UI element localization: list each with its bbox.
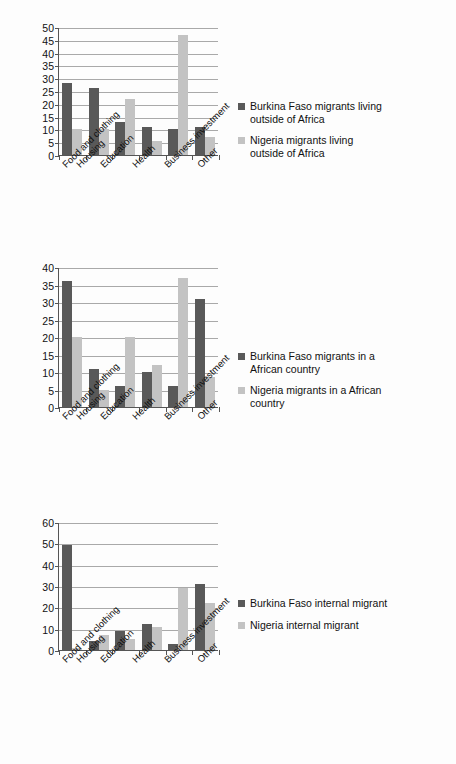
legend-label: Nigeria migrants in a African country [250,384,388,409]
legend-swatch-icon [238,103,245,110]
legend-label: Nigeria internal migrant [250,619,359,632]
y-axis-tick-label: 10 [42,625,54,635]
y-axis-tick-label: 15 [42,113,54,123]
legend-item: Burkina Faso migrants in a African count… [238,350,388,375]
x-axis-labels-3: Food and clothingHousingEducationHealthB… [58,657,358,727]
y-axis-tick-label: 40 [42,263,54,273]
x-tick-mark [192,650,193,655]
bar-group [59,268,86,407]
legend-3: Burkina Faso internal migrantNigeria int… [238,597,388,640]
x-tick-mark [59,155,60,160]
legend-2: Burkina Faso migrants in a African count… [238,350,388,418]
x-tick-mark [192,407,193,412]
bar-group [165,268,192,407]
legend-swatch-icon [238,387,245,394]
bar-chart-migrants-outside-africa: 05101520253035404550 Food and clothingHo… [0,10,456,240]
bar-series-a [62,83,72,155]
y-axis-labels-1: 05101520253035404550 [20,28,54,156]
y-axis-tick-label: 20 [42,603,54,613]
bar-chart-internal-migrants: 0102030405060 Food and clothingHousingEd… [0,505,456,755]
x-axis-labels-1: Food and clothingHousingEducationHealthB… [58,162,358,232]
bar-series-a [62,281,72,407]
bar-group [139,523,166,650]
x-tick-mark [192,155,193,160]
legend-item: Burkina Faso internal migrant [238,597,388,610]
y-axis-tick-label: 30 [42,582,54,592]
y-axis-tick-label: 45 [42,36,54,46]
x-axis-labels-2: Food and clothingHousingEducationHealthB… [58,414,358,484]
legend-item: Nigeria migrants in a African country [238,384,388,409]
y-axis-tick-label: 40 [42,561,54,571]
x-tick-mark [59,650,60,655]
x-tick-mark [219,155,220,160]
y-axis-tick-label: 35 [42,61,54,71]
y-axis-tick-label: 25 [42,316,54,326]
y-axis-tick-label: 20 [42,333,54,343]
legend-label: Burkina Faso migrants in a African count… [250,350,388,375]
bar-group [59,523,86,650]
y-axis-tick-label: 20 [42,100,54,110]
legend-item: Nigeria internal migrant [238,619,388,632]
legend-swatch-icon [238,137,245,144]
legend-item: Nigeria migrants living outside of Afric… [238,134,388,159]
legend-label: Burkina Faso internal migrant [250,597,387,610]
y-axis-tick-label: 50 [42,23,54,33]
y-axis-tick-label: 0 [48,646,54,656]
x-tick-mark [219,650,220,655]
x-tick-mark [219,407,220,412]
legend-swatch-icon [238,353,245,360]
bar-group [139,268,166,407]
legend-swatch-icon [238,622,245,629]
legend-item: Burkina Faso migrants living outside of … [238,100,388,125]
y-axis-tick-label: 5 [48,138,54,148]
y-axis-tick-label: 35 [42,281,54,291]
y-axis-tick-label: 50 [42,539,54,549]
y-axis-tick-label: 60 [42,518,54,528]
y-axis-tick-label: 0 [48,403,54,413]
y-axis-tick-label: 40 [42,49,54,59]
x-tick-mark [59,407,60,412]
legend-label: Nigeria migrants living outside of Afric… [250,134,388,159]
y-axis-tick-label: 0 [48,151,54,161]
y-axis-tick-label: 30 [42,298,54,308]
y-axis-labels-2: 0510152025303540 [20,268,54,408]
legend-label: Burkina Faso migrants living outside of … [250,100,388,125]
bar-group [59,28,86,155]
y-axis-labels-3: 0102030405060 [20,523,54,651]
bar-group [139,28,166,155]
y-axis-tick-label: 10 [42,368,54,378]
chart-page: 05101520253035404550 Food and clothingHo… [0,0,456,764]
legend-1: Burkina Faso migrants living outside of … [238,100,388,168]
y-axis-tick-label: 15 [42,351,54,361]
bar-series-a [62,545,72,650]
legend-swatch-icon [238,600,245,607]
y-axis-tick-label: 5 [48,386,54,396]
y-axis-tick-label: 30 [42,74,54,84]
y-axis-tick-label: 25 [42,87,54,97]
bar-chart-migrants-in-african-country: 0510152025303540 Food and clothingHousin… [0,250,456,490]
y-axis-tick-label: 10 [42,125,54,135]
